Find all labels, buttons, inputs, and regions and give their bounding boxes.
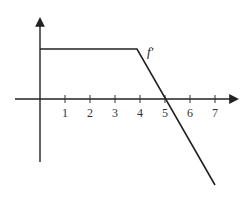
tick-label-3: 3: [112, 106, 118, 120]
curve-label: f′: [147, 44, 154, 59]
x-tick-labels: 1 2 3 4 5 6 7: [62, 106, 218, 120]
tick-label-4: 4: [137, 106, 143, 120]
tick-label-7: 7: [212, 106, 218, 120]
chart: 1 2 3 4 5 6 7 f′: [0, 0, 249, 198]
tick-label-1: 1: [62, 106, 68, 120]
tick-label-2: 2: [87, 106, 93, 120]
tick-label-5: 5: [162, 106, 168, 120]
tick-label-6: 6: [187, 106, 193, 120]
